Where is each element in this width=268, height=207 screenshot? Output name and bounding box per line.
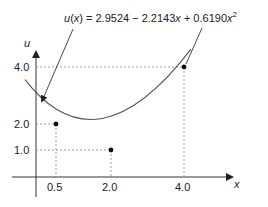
quadratic-fit-diagram: u(x) = 2.9524 − 2.2143x + 0.6190x2 u x 4… [0, 0, 268, 207]
y-tick: 2.0 [14, 118, 29, 130]
data-point [109, 148, 114, 153]
guide-lines [36, 67, 184, 177]
x-tick: 4.0 [175, 181, 190, 193]
y-tick: 4.0 [14, 61, 29, 73]
leader-line-right [186, 28, 202, 64]
y-axis-label: u [24, 37, 30, 49]
leader-line-left [42, 29, 73, 101]
equation-label: u(x) = 2.9524 − 2.2143x + 0.6190x2 [64, 10, 238, 24]
x-tick: 2.0 [102, 181, 117, 193]
fitted-curve [25, 49, 191, 119]
y-tick: 1.0 [14, 144, 29, 156]
x-tick: 0.5 [47, 181, 62, 193]
x-axis-label: x [233, 178, 240, 190]
data-point [182, 65, 187, 70]
data-point [54, 122, 59, 127]
